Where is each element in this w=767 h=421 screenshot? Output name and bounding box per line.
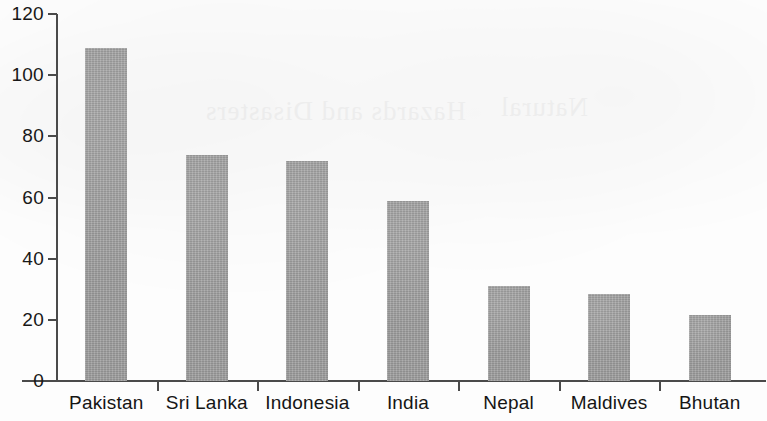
category-label-sri-lanka: Sri Lanka [157,392,258,414]
bar-pakistan [85,48,127,381]
y-axis-tick-label-text: 20 [2,310,44,329]
y-axis-tick-label: 80 [0,126,44,145]
category-label-pakistan: Pakistan [56,392,157,414]
bar-nepal [488,286,530,381]
x-axis-tick-mark [157,382,159,391]
x-axis-tick-mark [559,382,561,391]
y-axis-tick-label-text: 80 [2,126,44,145]
bar-chart-figure: Hazards and Disasters Natural 0204060801… [0,0,767,421]
y-axis-tick-label: 60 [0,188,44,207]
category-label-bhutan: Bhutan [659,392,760,414]
x-axis-tick-mark [659,382,661,391]
y-axis-tick-label-text: 60 [2,188,44,207]
bar-sri-lanka [186,155,228,381]
x-axis-tick-mark [358,382,360,391]
category-label-maldives: Maldives [559,392,660,414]
y-axis-tick-label-text: 40 [2,249,44,268]
y-axis-tick-label: 20 [0,310,44,329]
y-axis-tick-label: 120 [0,4,44,23]
bar-bhutan [689,315,731,381]
y-axis-tick-label-text: 120 [2,4,44,23]
bar-india [387,201,429,381]
category-label-india: India [358,392,459,414]
y-axis-tick-label: 40 [0,249,44,268]
x-axis-tick-mark [458,382,460,391]
y-axis-tick-label: 100 [0,65,44,84]
bar-maldives [588,294,630,381]
bar-indonesia [286,161,328,381]
y-axis-tick-label: 0 [0,371,44,390]
bars-container [56,14,756,381]
category-label-nepal: Nepal [458,392,559,414]
category-label-indonesia: Indonesia [257,392,358,414]
x-axis-tick-mark [257,382,259,391]
y-axis-tick-label-text: 0 [2,371,44,390]
y-axis-tick-label-text: 100 [2,65,44,84]
